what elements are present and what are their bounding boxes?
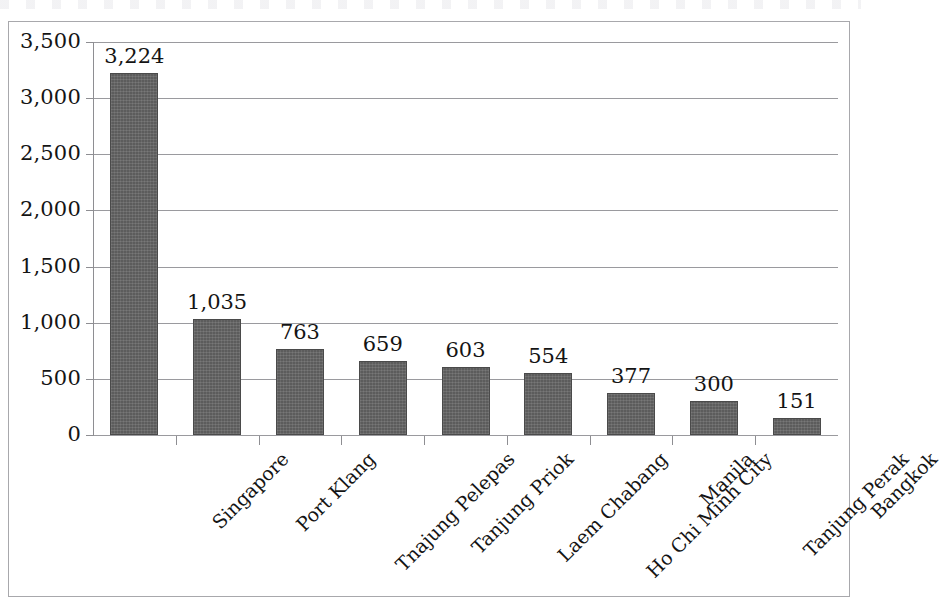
bar bbox=[690, 401, 738, 435]
bar bbox=[524, 373, 572, 435]
x-axis-category-label: Port Klang bbox=[293, 449, 379, 535]
y-axis-tick bbox=[86, 154, 94, 155]
category-tick bbox=[672, 436, 673, 445]
bar bbox=[442, 367, 490, 435]
scan-artifact-strip bbox=[0, 0, 861, 9]
y-axis-tick-label: 500 bbox=[9, 368, 81, 389]
gridline bbox=[93, 267, 838, 268]
y-axis-tick-label: 3,000 bbox=[9, 87, 81, 108]
y-axis-line bbox=[93, 42, 94, 436]
category-tick bbox=[176, 436, 177, 445]
plot-area: 05001,0001,5002,0002,5003,0003,500 3,224… bbox=[9, 22, 851, 598]
category-tick bbox=[259, 436, 260, 445]
bar-value-label: 3,224 bbox=[74, 46, 194, 67]
bar bbox=[193, 319, 241, 435]
category-tick bbox=[507, 436, 508, 445]
y-axis-tick bbox=[86, 98, 94, 99]
gridline bbox=[93, 210, 838, 211]
y-axis-tick-label: 1,000 bbox=[9, 312, 81, 333]
y-axis-tick bbox=[86, 379, 94, 380]
bar bbox=[359, 361, 407, 435]
gridline bbox=[93, 154, 838, 155]
y-axis-tick-label: 0 bbox=[9, 424, 81, 445]
bar-value-label: 554 bbox=[488, 346, 608, 367]
y-axis-tick bbox=[86, 323, 94, 324]
y-axis-tick bbox=[86, 210, 94, 211]
bar bbox=[607, 393, 655, 435]
bar-value-label: 151 bbox=[737, 391, 857, 412]
bar bbox=[110, 73, 158, 435]
gridline bbox=[93, 98, 838, 99]
gridline bbox=[93, 435, 838, 436]
chart-figure-frame: 05001,0001,5002,0002,5003,0003,500 3,224… bbox=[8, 21, 850, 597]
gridline bbox=[93, 42, 838, 43]
category-tick bbox=[424, 436, 425, 445]
y-axis-tick-labels: 05001,0001,5002,0002,5003,0003,500 bbox=[9, 22, 81, 598]
category-tick bbox=[341, 436, 342, 445]
y-axis-tick bbox=[86, 267, 94, 268]
y-axis-tick bbox=[86, 42, 94, 43]
x-axis-category-label: Singapore bbox=[209, 449, 292, 532]
category-tick bbox=[755, 436, 756, 445]
y-axis-tick-label: 2,000 bbox=[9, 199, 81, 220]
y-axis-tick-label: 3,500 bbox=[9, 31, 81, 52]
y-axis-tick-label: 1,500 bbox=[9, 256, 81, 277]
bar-value-label: 1,035 bbox=[157, 292, 277, 313]
y-axis-tick-label: 2,500 bbox=[9, 143, 81, 164]
bar bbox=[276, 349, 324, 435]
y-axis-tick bbox=[86, 435, 94, 436]
category-tick bbox=[590, 436, 591, 445]
bar bbox=[773, 418, 821, 435]
